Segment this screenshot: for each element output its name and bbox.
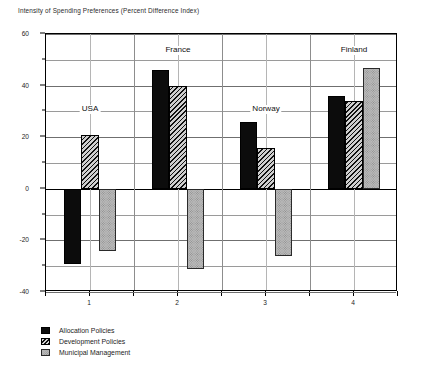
gridline-horizontal	[46, 292, 396, 293]
gridline-horizontal	[46, 266, 396, 267]
legend-swatch	[41, 349, 50, 357]
bar	[64, 189, 82, 264]
bar	[275, 189, 293, 256]
x-axis-tick-label: 4	[343, 299, 363, 306]
legend: Allocation PoliciesDevelopment PoliciesM…	[41, 325, 130, 358]
x-axis-tick-label: 1	[79, 299, 99, 306]
legend-label: Municipal Management	[59, 349, 130, 356]
bar	[345, 101, 363, 189]
legend-item: Development Policies	[41, 336, 130, 347]
gridline-horizontal	[46, 60, 396, 61]
gridline-vertical	[222, 34, 223, 290]
x-axis-tick-label: 2	[167, 299, 187, 306]
legend-item: Allocation Policies	[41, 325, 130, 336]
y-axis-tick-label: 20	[3, 133, 29, 140]
bar	[99, 189, 117, 251]
x-axis-tick-label: 3	[255, 299, 275, 306]
legend-swatch	[41, 338, 50, 346]
legend-label: Development Policies	[59, 338, 125, 345]
y-axis-tick-label: 40	[3, 81, 29, 88]
x-axis-boundary-tick	[397, 291, 398, 296]
annotation-label: France	[163, 46, 192, 54]
gridline-vertical	[134, 34, 135, 290]
bar	[240, 122, 258, 189]
bar	[257, 148, 275, 189]
chart-figure: Intensity of Spending Preferences (Perce…	[0, 0, 430, 369]
chart-title: Intensity of Spending Preferences (Perce…	[18, 7, 199, 14]
bar	[328, 96, 346, 189]
bar	[363, 68, 381, 189]
gridline-horizontal	[46, 86, 396, 87]
annotation-label: Norway	[250, 105, 281, 113]
y-axis-tick-label: -40	[3, 288, 29, 295]
plot-area: USAFranceNorwayFinland	[45, 33, 397, 291]
legend-label: Allocation Policies	[59, 327, 115, 334]
annotation-label: USA	[80, 105, 101, 113]
y-axis-tick-label: -20	[3, 236, 29, 243]
bar	[169, 86, 187, 189]
gridline-horizontal	[46, 34, 396, 35]
y-axis-tick-label: 0	[3, 184, 29, 191]
annotation-label: Finland	[339, 46, 370, 54]
legend-item: Municipal Management	[41, 347, 130, 358]
gridline-vertical	[310, 34, 311, 290]
legend-swatch	[41, 327, 50, 335]
bar	[81, 135, 99, 189]
bar	[152, 70, 170, 189]
bar	[187, 189, 205, 269]
y-axis-tick-label: 60	[3, 30, 29, 37]
